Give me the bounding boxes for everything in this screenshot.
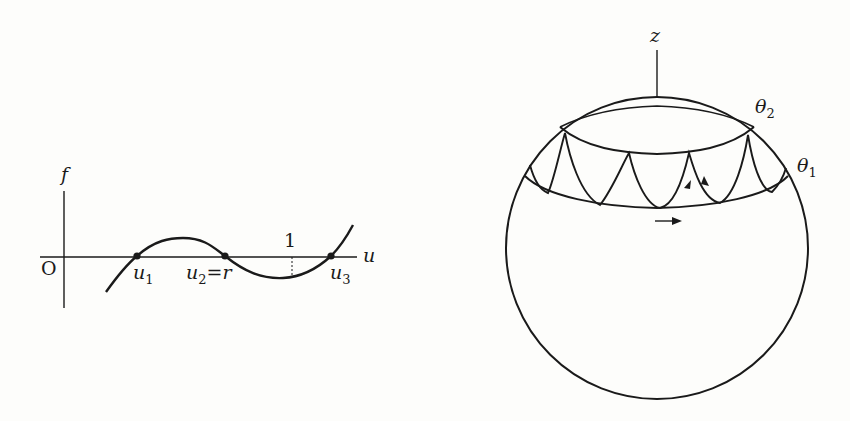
z-axis-label: z bbox=[649, 24, 661, 46]
theta2-label: θ2 bbox=[755, 95, 775, 121]
path-direction-arrow-up bbox=[684, 180, 691, 189]
root-u2-label: u2=r bbox=[186, 261, 233, 287]
root-u2-point bbox=[221, 252, 228, 259]
root-u3-point bbox=[327, 252, 334, 259]
sphere-diagram: z θ2 θ1 bbox=[506, 24, 817, 399]
figure-canvas: f u O 1 u1 u2=r u3 z θ2 θ1 bbox=[0, 0, 850, 421]
theta1-label: θ1 bbox=[797, 154, 817, 180]
latitude-theta2-front bbox=[560, 127, 754, 154]
u-axis-label: u bbox=[363, 244, 375, 266]
root-u3-label: u3 bbox=[330, 261, 351, 287]
precession-arrow-icon bbox=[672, 217, 682, 225]
f-axis-label: f bbox=[59, 163, 71, 185]
f-of-u-plot: f u O 1 u1 u2=r u3 bbox=[40, 163, 375, 308]
sphere-outline bbox=[506, 97, 808, 399]
latitude-theta2-back bbox=[560, 106, 754, 127]
root-u1-label: u1 bbox=[133, 261, 154, 287]
tick-1-label: 1 bbox=[284, 229, 296, 251]
root-u1-point bbox=[133, 252, 140, 259]
latitude-theta1-front bbox=[525, 176, 788, 208]
origin-label: O bbox=[41, 257, 57, 279]
path-direction-arrow-down bbox=[701, 176, 709, 186]
